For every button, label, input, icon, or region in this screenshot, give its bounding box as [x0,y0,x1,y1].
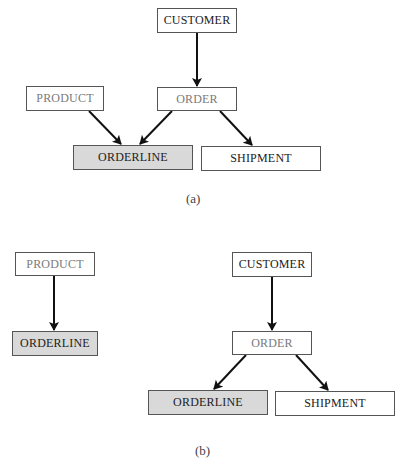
b-product-box: PRODUCT [15,252,95,276]
b-order-box: ORDER [232,331,312,355]
arrow-b-order-orderline [214,355,246,389]
b-product-label: PRODUCT [26,257,83,272]
b-customer-box: CUSTOMER [232,252,312,277]
a-customer-box: CUSTOMER [157,8,237,33]
a-order-label: ORDER [176,92,218,107]
arrow-b-order-shipment [296,355,328,390]
a-shipment-box: SHIPMENT [201,146,321,171]
a-customer-label: CUSTOMER [164,13,231,28]
b-shipment-box: SHIPMENT [275,391,395,416]
caption-a: (a) [186,191,200,207]
a-product-box: PRODUCT [26,86,104,111]
caption-b: (b) [195,443,210,459]
b-customer-label: CUSTOMER [239,257,306,272]
b-orderline-left-label: ORDERLINE [20,336,90,351]
a-orderline-label: ORDERLINE [98,150,168,165]
arrow-a-order-orderline [140,111,172,144]
a-shipment-label: SHIPMENT [230,151,292,166]
b-shipment-label: SHIPMENT [304,396,366,411]
b-orderline-right-label: ORDERLINE [173,395,243,410]
arrow-a-order-shipment [220,111,252,145]
b-order-label: ORDER [251,336,293,351]
arrow-a-product-orderline [89,111,121,144]
a-orderline-box: ORDERLINE [73,145,193,170]
b-orderline-left-box: ORDERLINE [12,331,98,356]
b-orderline-right-box: ORDERLINE [148,390,268,415]
a-order-box: ORDER [157,87,237,111]
a-product-label: PRODUCT [36,91,93,106]
